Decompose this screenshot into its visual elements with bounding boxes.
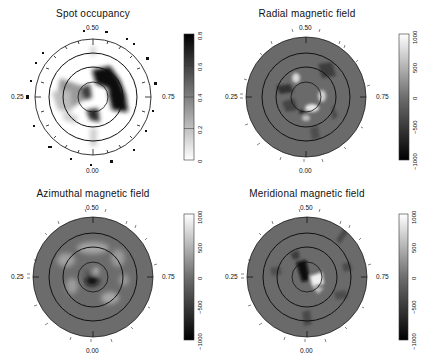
polar-map	[0, 180, 214, 360]
colorbar-tick: −1000	[411, 333, 417, 350]
polar-map	[214, 180, 428, 360]
phase-label-left: 0.25	[11, 93, 24, 100]
colorbar	[184, 214, 194, 340]
colorbar	[399, 214, 408, 340]
phase-label-bottom: 0.00	[86, 167, 99, 174]
phase-label-bottom: 0.00	[86, 347, 99, 354]
colorbar-tick: 0.2	[197, 126, 203, 134]
phase-label-right: 0.75	[376, 93, 389, 100]
phase-label-top: 0.50	[86, 204, 99, 211]
phase-label-right: 0.75	[376, 273, 389, 280]
panel-title: Spot occupancy	[0, 8, 186, 19]
colorbar-tick: 1000	[197, 211, 203, 224]
colorbar-tick: −500	[412, 120, 418, 134]
colorbar-tick: 1000	[411, 211, 417, 224]
phase-label-bottom: 0.00	[299, 167, 312, 174]
colorbar-tick: 500	[411, 243, 417, 253]
colorbar-tick: 0	[197, 277, 203, 280]
colorbar-tick: −1000	[197, 333, 203, 350]
phase-label-bottom: 0.00	[300, 347, 313, 354]
phase-label-left: 0.25	[11, 273, 24, 280]
colorbar-tick: −500	[197, 300, 203, 314]
polar-map	[0, 0, 214, 180]
colorbar-tick: 0	[412, 97, 418, 100]
colorbar-tick: 500	[197, 243, 203, 253]
colorbar-tick: 1000	[412, 31, 418, 44]
panel-azimuthal-field: Azimuthal magnetic field 0.50 0.25 0.75 …	[0, 180, 214, 360]
phase-label-left: 0.25	[225, 93, 238, 100]
panel-title: Radial magnetic field	[214, 8, 400, 19]
panel-title: Azimuthal magnetic field	[0, 188, 186, 199]
colorbar-tick: 0	[411, 277, 417, 280]
colorbar-tick: −1000	[412, 153, 418, 170]
colorbar	[399, 34, 409, 160]
colorbar-tick: 0.8	[197, 32, 203, 40]
phase-label-top: 0.50	[86, 24, 99, 31]
panel-meridional-field: Meridional magnetic field 0.50 0.25 0.75…	[214, 180, 428, 360]
colorbar-tick: 0	[197, 160, 203, 163]
phase-label-right: 0.75	[162, 93, 175, 100]
polar-map	[214, 0, 428, 180]
phase-label-top: 0.50	[299, 24, 312, 31]
phase-label-right: 0.75	[162, 273, 175, 280]
colorbar-tick: 0.6	[197, 63, 203, 71]
panel-spot-occupancy: Spot occupancy 0.50 0.25 0.75 0.00 0 0.2…	[0, 0, 214, 180]
colorbar-tick: 500	[412, 63, 418, 73]
colorbar-tick: 0.4	[197, 94, 203, 102]
phase-label-left: 0.25	[225, 273, 238, 280]
panel-radial-field: Radial magnetic field 0.50 0.25 0.75 0.0…	[214, 0, 428, 180]
panel-title: Meridional magnetic field	[214, 188, 400, 199]
phase-label-top: 0.50	[300, 204, 313, 211]
colorbar-tick: −500	[411, 300, 417, 314]
